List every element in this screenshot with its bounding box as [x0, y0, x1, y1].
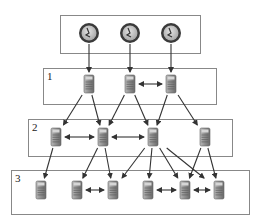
server-icon [148, 128, 158, 146]
sync-arrow [109, 95, 124, 125]
sync-arrow [157, 95, 167, 125]
sync-arrow [160, 148, 178, 178]
sync-arrow [83, 148, 98, 178]
server-icon [200, 128, 210, 146]
sync-arrow [92, 95, 100, 125]
edges [44, 44, 215, 190]
server-icon [125, 75, 135, 93]
sync-arrow [105, 148, 111, 178]
stratum-label: 1 [47, 71, 53, 82]
clock-icon [161, 23, 181, 43]
server-icon [143, 181, 153, 199]
server-icon [84, 75, 94, 93]
sync-arrow [208, 148, 216, 178]
sync-arrow [178, 95, 197, 125]
time-sync-hierarchy-diagram [0, 0, 259, 216]
clock-icon [79, 23, 99, 43]
server-icon [180, 181, 190, 199]
stratum-label: 3 [15, 173, 21, 184]
server-icon [98, 128, 108, 146]
server-icon [108, 181, 118, 199]
server-icon [51, 128, 61, 146]
server-icon [36, 181, 46, 199]
server-icon [72, 181, 82, 199]
sync-arrow [149, 148, 152, 178]
sync-arrow [167, 148, 204, 178]
sync-arrow [63, 95, 82, 125]
stratum-label: 2 [32, 122, 38, 133]
sync-arrow [44, 148, 52, 178]
sync-arrow [135, 95, 148, 125]
clock-icon [120, 23, 140, 43]
server-icon [166, 75, 176, 93]
sync-arrow [122, 148, 145, 178]
server-icon [214, 181, 224, 199]
